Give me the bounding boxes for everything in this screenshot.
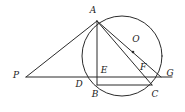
point-label-A: A [90, 6, 97, 15]
point-label-B: B [92, 90, 99, 99]
point-label-E: E [101, 66, 108, 75]
point-label-G: G [166, 69, 173, 78]
point-label-D: D [75, 80, 82, 89]
point-label-P: P [13, 71, 19, 80]
segment-AC [97, 21, 152, 85]
center-point-dot [132, 51, 135, 54]
point-label-F: F [140, 63, 146, 72]
circle-O-outline [82, 16, 162, 96]
geometry-figure: A P O D E F G B C [0, 0, 185, 112]
segment-PA [26, 21, 97, 77]
point-label-C: C [152, 90, 159, 99]
point-label-O: O [132, 35, 139, 44]
